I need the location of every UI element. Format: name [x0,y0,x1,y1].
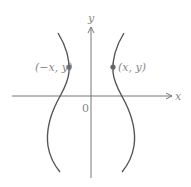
point-positive-x [110,64,115,69]
point-label-negative-x: (−x, y) [35,61,72,74]
point-label-positive-x: (x, y) [118,61,146,74]
symmetric-graph-diagram: y x 0 (−x, y) (x, y) [0,0,191,187]
left-branch-curve [47,33,69,172]
origin-label: 0 [82,102,89,115]
y-axis-label: y [87,12,95,25]
right-branch-curve [113,33,135,172]
x-axis-label: x [175,90,182,103]
